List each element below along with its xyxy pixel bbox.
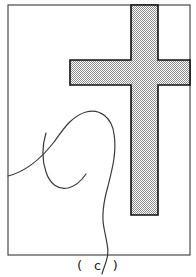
figure-panel: ( c ) (0, 0, 196, 277)
figure-caption: ( c ) (75, 258, 120, 273)
figure-background (0, 0, 196, 277)
figure-canvas: ( c ) (0, 0, 196, 277)
